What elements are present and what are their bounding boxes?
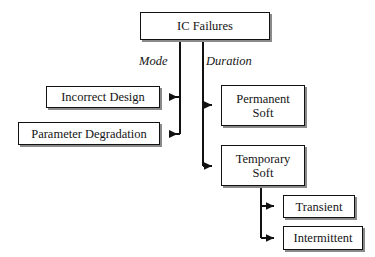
node-parameter-degradation[interactable]: Parameter Degradation bbox=[18, 122, 160, 145]
node-label-permanent-soft: Permanent Soft bbox=[236, 92, 289, 120]
node-incorrect-design[interactable]: Incorrect Design bbox=[46, 86, 160, 108]
node-label-transient: Transient bbox=[296, 200, 343, 214]
node-label-permanent-soft-line2: Soft bbox=[236, 106, 289, 120]
node-intermittent[interactable]: Intermittent bbox=[283, 226, 363, 250]
node-label-temporary-soft-line1: Temporary bbox=[236, 152, 291, 166]
node-label-ic-failures: IC Failures bbox=[177, 19, 233, 33]
node-permanent-soft[interactable]: Permanent Soft bbox=[221, 85, 305, 126]
node-temporary-soft[interactable]: Temporary Soft bbox=[221, 145, 305, 186]
diagram-canvas: IC Failures Incorrect Design Parameter D… bbox=[0, 0, 375, 257]
node-label-temporary-soft: Temporary Soft bbox=[236, 152, 291, 180]
node-label-parameter-degradation: Parameter Degradation bbox=[31, 127, 147, 141]
node-label-temporary-soft-line2: Soft bbox=[236, 166, 291, 180]
edge-label-mode: Mode bbox=[139, 54, 167, 69]
node-label-permanent-soft-line1: Permanent bbox=[236, 92, 289, 106]
node-label-intermittent: Intermittent bbox=[293, 231, 352, 245]
node-ic-failures[interactable]: IC Failures bbox=[140, 12, 270, 40]
node-transient[interactable]: Transient bbox=[283, 195, 355, 218]
edge-label-duration: Duration bbox=[206, 54, 252, 69]
node-label-incorrect-design: Incorrect Design bbox=[61, 90, 145, 104]
